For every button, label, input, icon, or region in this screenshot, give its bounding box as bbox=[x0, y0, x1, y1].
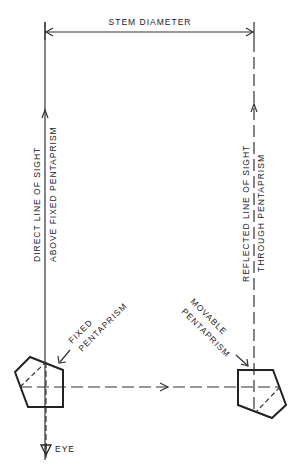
eye-label: EYE bbox=[55, 444, 75, 454]
direct-line-label-2: ABOVE FIXED PENTAPRISM bbox=[48, 126, 58, 262]
direct-line-of-sight: DIRECT LINE OF SIGHT ABOVE FIXED PENTAPR… bbox=[32, 22, 58, 460]
rangefinder-diagram: STEM DIAMETER DIRECT LINE OF SIGHT ABOVE… bbox=[0, 0, 302, 473]
movable-pentaprism: MOVABLE PENTAPRISM bbox=[180, 296, 286, 418]
eye-marker: EYE bbox=[41, 444, 75, 455]
horizontal-beam bbox=[20, 383, 280, 391]
fixed-pentaprism: FIXED PENTAPRISM bbox=[15, 301, 129, 460]
reflected-line-of-sight: REFLECTED LINE OF SIGHT THROUGH PENTAPRI… bbox=[241, 22, 266, 412]
stem-diameter-dimension: STEM DIAMETER bbox=[45, 17, 254, 40]
stem-diameter-label: STEM DIAMETER bbox=[109, 17, 192, 27]
reflected-line-label-2: THROUGH PENTAPRISM bbox=[256, 154, 266, 272]
reflected-line-label-1: REFLECTED LINE OF SIGHT bbox=[241, 145, 251, 282]
direct-line-label-1: DIRECT LINE OF SIGHT bbox=[32, 147, 42, 262]
